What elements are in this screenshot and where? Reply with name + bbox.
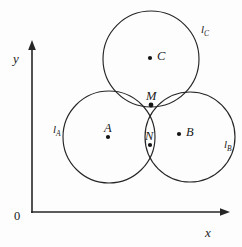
circle-b-label-sub: B <box>227 144 232 153</box>
point-a-dot <box>106 135 110 139</box>
circle-c-label: lC <box>201 24 209 38</box>
circle-a-label-sub: A <box>56 129 61 138</box>
geometry-figure: C A B M N lC lA lB y x 0 <box>0 0 242 247</box>
point-a-label: A <box>104 122 112 135</box>
y-axis-label: y <box>13 52 19 65</box>
point-b-dot <box>177 132 181 136</box>
point-c-label: C <box>157 50 165 63</box>
y-axis <box>28 40 36 213</box>
x-axis <box>31 208 230 216</box>
y-axis-arrowhead <box>28 40 36 50</box>
circle-c-label-sub: C <box>204 29 209 38</box>
point-m-dot <box>149 103 154 108</box>
point-n-label: N <box>145 130 153 143</box>
point-b-label: B <box>186 126 194 139</box>
point-n-dot <box>148 143 152 147</box>
x-axis-arrowhead <box>220 208 230 216</box>
x-axis-label: x <box>205 226 211 239</box>
circle-a-label: lA <box>53 124 61 138</box>
point-m-label: M <box>146 90 156 103</box>
origin-label: 0 <box>14 210 20 223</box>
point-c-dot <box>148 56 152 60</box>
circle-b-label: lB <box>224 139 232 153</box>
